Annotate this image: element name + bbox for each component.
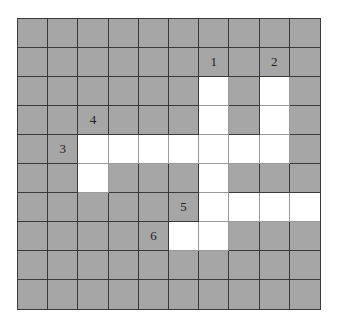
blocked-cell — [169, 106, 199, 135]
blocked-cell — [78, 193, 108, 222]
blocked-cell — [18, 280, 48, 309]
crossword-grid: 124356 — [17, 18, 321, 310]
clue-number: 5 — [169, 199, 198, 215]
blocked-cell — [109, 106, 139, 135]
blocked-cell — [229, 280, 259, 309]
blocked-cell — [48, 48, 78, 77]
blocked-cell — [18, 135, 48, 164]
blocked-cell — [48, 280, 78, 309]
blocked-cell — [229, 222, 259, 251]
blocked-cell — [290, 135, 320, 164]
blocked-cell — [290, 77, 320, 106]
open-cell[interactable] — [229, 135, 259, 164]
open-cell[interactable] — [199, 164, 229, 193]
blocked-cell — [229, 77, 259, 106]
open-cell[interactable] — [109, 135, 139, 164]
blocked-cell — [199, 251, 229, 280]
blocked-cell — [18, 77, 48, 106]
open-cell[interactable] — [199, 135, 229, 164]
blocked-cell: 5 — [169, 193, 199, 222]
blocked-cell — [290, 106, 320, 135]
blocked-cell — [109, 77, 139, 106]
blocked-cell — [139, 48, 169, 77]
blocked-cell — [229, 164, 259, 193]
blocked-cell — [139, 251, 169, 280]
blocked-cell — [109, 222, 139, 251]
blocked-cell — [48, 251, 78, 280]
blocked-cell — [290, 19, 320, 48]
blocked-cell — [229, 106, 259, 135]
blocked-cell — [109, 251, 139, 280]
open-cell[interactable] — [260, 77, 290, 106]
open-cell[interactable] — [78, 164, 108, 193]
blocked-cell — [78, 222, 108, 251]
clue-number: 4 — [78, 112, 107, 128]
blocked-cell — [290, 164, 320, 193]
clue-number: 2 — [260, 54, 289, 70]
blocked-cell — [48, 106, 78, 135]
open-cell[interactable] — [199, 222, 229, 251]
open-cell[interactable] — [169, 222, 199, 251]
open-cell[interactable] — [78, 135, 108, 164]
blocked-cell — [169, 48, 199, 77]
blocked-cell: 2 — [260, 48, 290, 77]
blocked-cell — [260, 251, 290, 280]
blocked-cell: 4 — [78, 106, 108, 135]
blocked-cell — [139, 280, 169, 309]
blocked-cell — [48, 77, 78, 106]
blocked-cell — [229, 251, 259, 280]
blocked-cell — [139, 164, 169, 193]
blocked-cell — [48, 193, 78, 222]
blocked-cell — [109, 280, 139, 309]
clue-number: 3 — [48, 141, 77, 157]
open-cell[interactable] — [260, 106, 290, 135]
blocked-cell — [260, 19, 290, 48]
blocked-cell — [18, 48, 48, 77]
open-cell[interactable] — [169, 135, 199, 164]
open-cell[interactable] — [260, 135, 290, 164]
blocked-cell — [169, 280, 199, 309]
blocked-cell — [139, 19, 169, 48]
blocked-cell — [290, 222, 320, 251]
blocked-cell — [169, 251, 199, 280]
open-cell[interactable] — [199, 106, 229, 135]
open-cell[interactable] — [260, 193, 290, 222]
blocked-cell — [18, 164, 48, 193]
blocked-cell — [290, 251, 320, 280]
blocked-cell — [18, 193, 48, 222]
blocked-cell — [290, 280, 320, 309]
blocked-cell — [18, 222, 48, 251]
blocked-cell — [78, 48, 108, 77]
blocked-cell — [78, 251, 108, 280]
blocked-cell — [139, 77, 169, 106]
blocked-cell — [229, 48, 259, 77]
blocked-cell — [109, 19, 139, 48]
blocked-cell — [78, 280, 108, 309]
open-cell[interactable] — [290, 193, 320, 222]
blocked-cell — [139, 106, 169, 135]
blocked-cell — [199, 280, 229, 309]
blocked-cell — [169, 77, 199, 106]
open-cell[interactable] — [139, 135, 169, 164]
blocked-cell — [229, 19, 259, 48]
clue-number: 1 — [199, 54, 228, 70]
clue-number: 6 — [139, 228, 168, 244]
blocked-cell — [48, 19, 78, 48]
blocked-cell — [139, 193, 169, 222]
blocked-cell: 1 — [199, 48, 229, 77]
blocked-cell — [18, 19, 48, 48]
blocked-cell — [48, 222, 78, 251]
blocked-cell — [290, 48, 320, 77]
blocked-cell — [260, 222, 290, 251]
open-cell[interactable] — [199, 77, 229, 106]
blocked-cell — [260, 164, 290, 193]
blocked-cell — [199, 19, 229, 48]
blocked-cell — [48, 164, 78, 193]
blocked-cell — [109, 164, 139, 193]
blocked-cell — [109, 193, 139, 222]
open-cell[interactable] — [199, 193, 229, 222]
open-cell[interactable] — [229, 193, 259, 222]
blocked-cell — [78, 19, 108, 48]
blocked-cell: 3 — [48, 135, 78, 164]
blocked-cell — [169, 164, 199, 193]
